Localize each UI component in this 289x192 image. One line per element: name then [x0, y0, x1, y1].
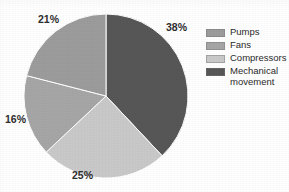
legend-label-fans: Fans	[230, 40, 251, 51]
legend-item-mechanical-movement[interactable]: Mechanical movement	[206, 66, 289, 87]
slice-value-label-compressors: 25%	[72, 170, 93, 181]
legend-swatch-fans	[206, 42, 225, 50]
legend-item-fans[interactable]: Fans	[206, 40, 289, 51]
pie-plot-area	[22, 12, 190, 180]
pie-svg	[22, 12, 190, 180]
slice-value-label-mechanical-movement: 38%	[166, 22, 187, 33]
legend-label-mechanical-movement: Mechanical movement	[230, 66, 278, 87]
legend-label-pumps: Pumps	[230, 27, 260, 38]
legend-swatch-pumps	[206, 29, 225, 37]
slice-value-label-pumps: 21%	[38, 14, 59, 25]
legend-label-compressors: Compressors	[230, 53, 287, 64]
chart-legend: Pumps Fans Compressors Mechanical moveme…	[206, 27, 289, 89]
legend-item-pumps[interactable]: Pumps	[206, 27, 289, 38]
slice-value-label-fans: 16%	[5, 114, 26, 125]
legend-swatch-mechanical-movement	[206, 68, 225, 76]
pie-chart-figure: 38% 21% 16% 25% Pumps Fans Compressors M…	[0, 0, 289, 192]
legend-swatch-compressors	[206, 55, 225, 63]
legend-item-compressors[interactable]: Compressors	[206, 53, 289, 64]
